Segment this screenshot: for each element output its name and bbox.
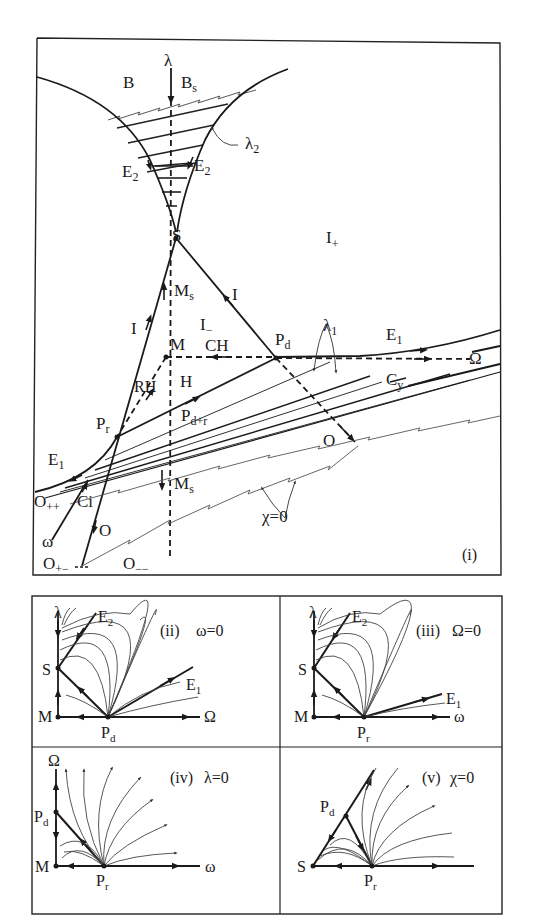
e1-line bbox=[108, 667, 193, 717]
panel-ii-tag: (ii) bbox=[160, 622, 180, 640]
chi-boundary-lower bbox=[82, 446, 358, 566]
panel-i-tag: (i) bbox=[462, 546, 477, 564]
label-i-minus: I− bbox=[200, 315, 213, 337]
m-point bbox=[54, 864, 59, 869]
pd-point bbox=[344, 814, 349, 819]
lambda1-family bbox=[45, 362, 500, 498]
label-o-left: O bbox=[99, 521, 111, 540]
phase-diagram: λ B Bs λ2 E2 E2 S I+ Ms I I I− M CH Pd λ… bbox=[0, 0, 553, 919]
down-arrow bbox=[330, 830, 336, 839]
pd-point bbox=[54, 810, 59, 815]
label-e2: E2 bbox=[352, 608, 367, 628]
label-pr: Pr bbox=[364, 872, 377, 892]
pd-s-arrow bbox=[80, 689, 88, 697]
label-e1: E1 bbox=[446, 690, 461, 710]
label-pd: Pd bbox=[34, 808, 49, 828]
label-bs: Bs bbox=[181, 73, 197, 95]
label-m: M bbox=[170, 335, 185, 354]
label-o-minus-minus: O−− bbox=[123, 554, 149, 576]
label-s: S bbox=[172, 226, 181, 245]
e1-right-arrow bbox=[410, 350, 424, 351]
o-right-arrow bbox=[340, 426, 352, 439]
panel-v-condition: χ=0 bbox=[449, 769, 474, 787]
label-pdr: Pd+r bbox=[181, 406, 207, 428]
label-ms-top: Ms bbox=[174, 281, 194, 303]
panel-i: λ B Bs λ2 E2 E2 S I+ Ms I I I− M CH Pd λ… bbox=[33, 38, 501, 576]
label-e2: E2 bbox=[98, 608, 113, 628]
panel-ii: λ E2 S E1 M Pd Ω (ii) ω=0 bbox=[38, 600, 224, 744]
label-i-right: I bbox=[232, 285, 238, 304]
panel-iv-condition: λ=0 bbox=[204, 769, 229, 786]
label-omega-small: ω bbox=[42, 532, 53, 551]
s-pr-line bbox=[82, 238, 176, 566]
omega-dashed bbox=[276, 358, 470, 359]
label-ms-bottom: Ms bbox=[174, 474, 194, 496]
pr-point bbox=[362, 715, 367, 720]
pr-point bbox=[370, 864, 375, 869]
lambda2-hatch bbox=[117, 104, 228, 206]
label-lambda: λ bbox=[309, 604, 317, 621]
label-pd: Pd bbox=[275, 330, 290, 352]
panel-ii-condition: ω=0 bbox=[196, 622, 224, 639]
label-s: S bbox=[42, 661, 51, 678]
panel-iv-tag: (iv) bbox=[170, 769, 193, 787]
flow-lines bbox=[60, 768, 176, 866]
label-pr: Pr bbox=[96, 872, 109, 892]
label-b: B bbox=[123, 73, 134, 92]
label-cy: Cy bbox=[386, 370, 403, 392]
h-arrow bbox=[185, 398, 197, 404]
label-pd: Pd bbox=[320, 798, 335, 818]
label-pr: Pr bbox=[96, 414, 109, 436]
pr-s-arrow bbox=[336, 689, 344, 697]
panel-iii-tag: (iii) bbox=[416, 622, 440, 640]
label-i-plus: I+ bbox=[326, 228, 339, 251]
label-o-plus-minus: O+− bbox=[43, 554, 69, 576]
panel-iii: λ E2 S E1 M Pr ω (iii) Ω=0 bbox=[294, 600, 481, 744]
label-axis: ω bbox=[205, 858, 216, 875]
label-o-right: O bbox=[323, 431, 335, 450]
label-e2-left: E2 bbox=[122, 162, 138, 184]
e2-right-arrow bbox=[189, 157, 193, 166]
label-omega-cap: Ω bbox=[48, 752, 60, 769]
label-lambda: λ bbox=[164, 51, 173, 70]
label-e1-right: E1 bbox=[386, 325, 402, 347]
pr-point bbox=[115, 435, 120, 440]
e2-arrow bbox=[334, 628, 340, 637]
label-m: M bbox=[38, 708, 52, 725]
label-e2-right: E2 bbox=[194, 156, 210, 178]
label-rh: RH bbox=[134, 378, 157, 395]
label-m: M bbox=[35, 858, 49, 875]
s-point bbox=[312, 666, 317, 671]
label-ch: CH bbox=[205, 336, 229, 355]
bs-boundary bbox=[108, 90, 256, 120]
label-lambda2: λ2 bbox=[245, 134, 259, 156]
panel-iii-condition: Ω=0 bbox=[452, 622, 481, 639]
s-point bbox=[56, 666, 61, 671]
label-s: S bbox=[297, 858, 306, 875]
label-h: H bbox=[180, 372, 192, 391]
label-lambda1: λ1 bbox=[323, 316, 337, 338]
label-chi-zero: χ=0 bbox=[261, 507, 288, 526]
label-axis: ω bbox=[454, 708, 465, 725]
lambda2-pointer bbox=[212, 128, 238, 145]
panel-v-tag: (v) bbox=[422, 769, 441, 787]
pd-point bbox=[106, 715, 111, 720]
e1-arrow bbox=[160, 679, 172, 686]
s-point bbox=[311, 864, 316, 869]
label-s: S bbox=[298, 661, 307, 678]
pr-pd-arrow bbox=[356, 836, 362, 848]
pr-point bbox=[102, 864, 107, 869]
label-e1-left: E1 bbox=[48, 450, 64, 472]
label-i-left: I bbox=[131, 319, 137, 338]
m-point bbox=[312, 715, 317, 720]
m-point bbox=[56, 715, 61, 720]
label-omega-cap: Ω bbox=[469, 349, 482, 368]
label-m: M bbox=[294, 708, 308, 725]
label-axis: Ω bbox=[204, 708, 216, 725]
panel-iv: Ω Pd M Pr ω (iv) λ=0 bbox=[34, 752, 229, 892]
panel-v: Pd S Pr (v) χ=0 bbox=[297, 768, 474, 892]
label-lambda: λ bbox=[54, 604, 62, 621]
flow-lines bbox=[60, 600, 198, 717]
label-pr: Pr bbox=[357, 724, 370, 744]
label-pd: Pd bbox=[101, 724, 116, 744]
